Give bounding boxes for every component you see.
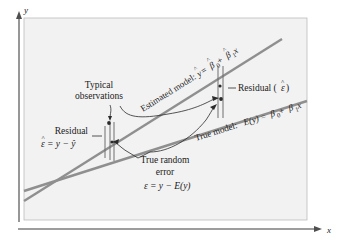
- regression-diagram-figure: y x: [0, 0, 343, 251]
- right-estimated-line-point: [218, 84, 221, 87]
- y-axis: [16, 11, 22, 222]
- true-random-error-formula: ε = y − E(y): [144, 181, 191, 192]
- true-random-error-epsilon: ε: [144, 181, 148, 191]
- x-axis: [18, 226, 322, 232]
- residual-right-prefix: Residual (: [238, 83, 277, 94]
- true-random-error-formula-rest: = y − E(y): [150, 181, 191, 192]
- typical-observations-line1: Typical: [85, 80, 114, 90]
- regression-diagram-canvas: y x: [0, 0, 343, 251]
- right-observation-point: [219, 97, 223, 101]
- residual-left-formula-rest: = y − ŷ: [47, 139, 76, 149]
- typical-observations-line2: observations: [75, 91, 123, 101]
- residual-right-suffix: ): [286, 83, 289, 94]
- y-axis-label: y: [23, 5, 28, 15]
- x-axis-label: x: [326, 225, 331, 235]
- left-observation-point: [107, 121, 111, 125]
- true-random-error-line2: error: [156, 167, 175, 177]
- true-random-error-line1: True random: [141, 155, 191, 165]
- residual-left-label: Residual: [55, 126, 89, 136]
